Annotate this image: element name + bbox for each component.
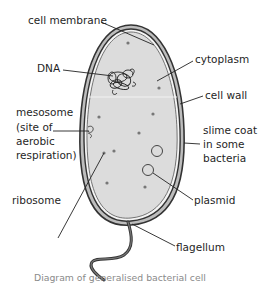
label-mesosome-2: (site of [16,121,53,133]
label-plasmid: plasmid [194,194,235,206]
label-flagellum: flagellum [176,241,225,253]
label-cytoplasm: cytoplasm [195,53,249,65]
label-mesosome-3: aerobic [16,135,55,147]
label-slime-coat: slime coat [203,124,257,136]
label-cell-wall: cell wall [205,89,247,101]
diagram-caption: Diagram of generalised bacterial cell [34,272,206,283]
label-cell-membrane: cell membrane [28,14,107,26]
label-mesosome-4: respiration) [16,149,77,161]
label-slime-coat-3: bacteria [203,152,246,164]
label-slime-coat-2: in some [203,138,245,150]
label-dna: DNA [37,62,61,74]
label-mesosome: mesosome [16,106,73,118]
label-ribosome: ribosome [12,194,61,206]
bacterial-cell-diagram: cell membrane DNA cytoplasm cell wall me… [0,0,261,283]
